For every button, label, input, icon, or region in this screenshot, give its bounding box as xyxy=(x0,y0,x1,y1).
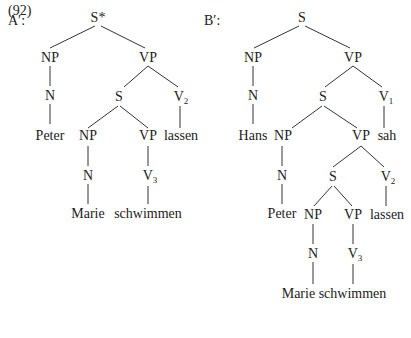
leaf-sah: sah xyxy=(378,128,397,144)
node-n-2: N xyxy=(83,168,93,184)
node-vp-2: VP xyxy=(352,128,370,144)
node-np-2: NP xyxy=(79,128,97,144)
node-n: N xyxy=(248,88,258,104)
node-np-3: NP xyxy=(304,207,322,223)
leaf-lassen: lassen xyxy=(370,207,404,223)
node-vp-3: VP xyxy=(344,207,362,223)
node-vp-2: VP xyxy=(139,128,157,144)
node-n-3: N xyxy=(308,246,318,262)
node-s-3: S xyxy=(329,169,337,185)
node-v2: V2 xyxy=(174,89,189,109)
node-np: NP xyxy=(244,50,262,66)
node-n: N xyxy=(45,88,55,104)
node-v3: V3 xyxy=(348,246,363,266)
node-n-2: N xyxy=(277,168,287,184)
node-vp: VP xyxy=(344,50,362,66)
node-vp: VP xyxy=(139,50,157,66)
node-v2: V2 xyxy=(381,169,396,189)
leaf-hans: Hans xyxy=(239,128,268,144)
node-v3: V3 xyxy=(143,168,158,188)
node-s: S xyxy=(115,89,123,105)
leaf-schwimmen: schwimmen xyxy=(114,206,182,222)
node-np: NP xyxy=(41,50,59,66)
tree-a-label: A′: xyxy=(8,13,25,29)
leaf-lassen: lassen xyxy=(164,128,198,144)
leaf-peter: Peter xyxy=(268,206,297,222)
node-np-2: NP xyxy=(274,128,292,144)
node-s-star: S* xyxy=(91,10,106,26)
leaf-marie: Marie xyxy=(71,206,104,222)
node-s: S xyxy=(298,10,306,26)
node-v1: V1 xyxy=(379,89,394,109)
leaf-marie-schwimmen: Marie schwimmen xyxy=(282,286,387,302)
tree-b-label: B′: xyxy=(204,13,220,29)
node-s-2: S xyxy=(319,89,327,105)
leaf-peter: Peter xyxy=(36,128,65,144)
